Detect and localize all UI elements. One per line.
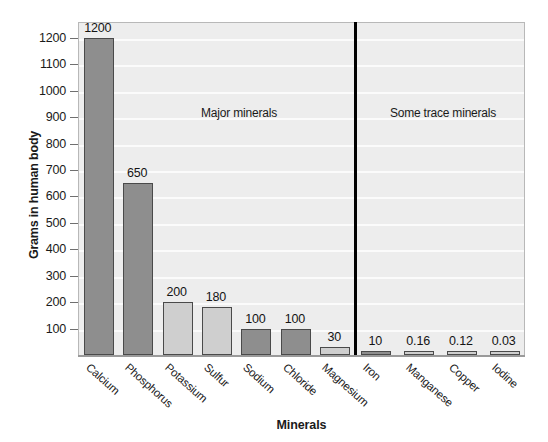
x-axis-category-label: Iron [361,361,383,383]
group-annotation-label: Major minerals [201,106,277,120]
x-axis-baseline [78,355,525,357]
y-axis-tick-label: 1100 [24,57,66,71]
bar-value-label: 650 [107,166,167,180]
plot-area: Major mineralsSome trace minerals [78,22,525,355]
x-axis-category-label: Calcium [84,361,122,397]
group-divider-line [354,22,357,357]
y-axis-tick-label: 500 [24,216,66,230]
x-axis-category-label: Copper [447,361,482,394]
x-axis-category-label: Sodium [241,361,277,395]
bar-value-label: 0.03 [474,334,534,348]
bar-value-label: 100 [265,312,325,326]
bar-value-label: 1200 [68,21,128,35]
bar-value-label: 180 [186,290,246,304]
x-axis-category-label: Sulfur [202,361,231,389]
y-axis-tick-label: 900 [24,110,66,124]
group-annotation-label: Some trace minerals [390,106,496,120]
y-axis-tick-label: 200 [24,295,66,309]
x-axis-category-label: Chloride [281,361,320,398]
y-axis-tick-label: 800 [24,137,66,151]
y-axis-tick-label: 300 [24,269,66,283]
mineral-composition-bar-chart: Grams in human body 10020030040050060070… [0,0,548,442]
y-axis-tick-label: 100 [24,322,66,336]
group-annotations: Major mineralsSome trace minerals [79,23,524,355]
y-axis-tick-label: 1200 [24,31,66,45]
x-axis-category-label: Iodine [490,361,520,390]
y-axis-tick-label: 600 [24,189,66,203]
y-axis-tick-label: 700 [24,163,66,177]
x-axis-title: Minerals [78,418,525,432]
y-axis-tick-label: 400 [24,242,66,256]
y-axis-tick-label: 1000 [24,84,66,98]
